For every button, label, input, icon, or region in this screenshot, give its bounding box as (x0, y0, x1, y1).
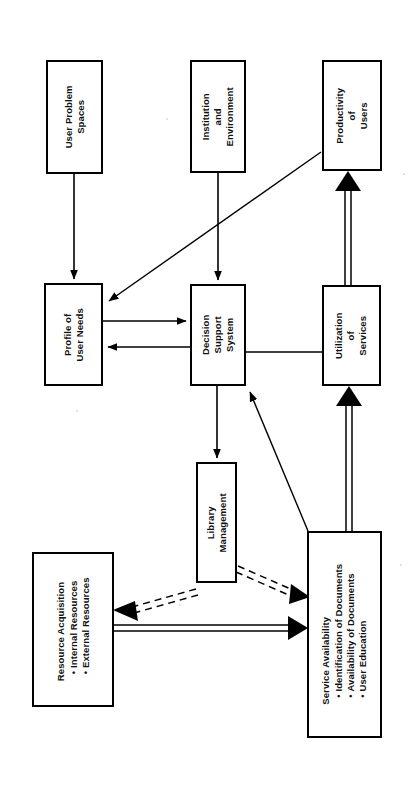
edge-service-availability-to-utilization (336, 386, 362, 531)
node-title-line1: Profile of (62, 308, 74, 361)
node-utilization-of-services[interactable]: Utilization of Services (322, 285, 381, 386)
node-label: Decision Support System (200, 315, 236, 355)
edge-library-management-to-service-availability (236, 566, 310, 604)
node-bullet-list: Identification of Documents Availability… (333, 564, 369, 705)
node-title-line3: Environment (224, 87, 236, 146)
node-title-line2: of (346, 312, 358, 359)
node-bullet-item: User Education (357, 564, 369, 705)
node-library-management[interactable]: Library Management (196, 462, 237, 583)
node-bullet-item: Identification of Documents (333, 564, 345, 705)
node-title-line1: Resource Acquisition (55, 578, 67, 682)
node-label: Productivity of Users (334, 87, 370, 143)
node-label: Institution and Environment (200, 87, 236, 146)
node-label: Resource Acquisition Internal Resources … (55, 578, 92, 682)
node-title-line2: Spaces (75, 86, 87, 149)
node-label: Service Availability Identification of D… (320, 564, 369, 705)
node-title-line2: of (346, 87, 358, 143)
node-title-line3: Services (357, 312, 369, 359)
node-decision-support-system[interactable]: Decision Support System (190, 284, 246, 386)
edge-productivity-to-profile (109, 152, 321, 301)
node-bullet-item: External Resources (79, 578, 91, 682)
node-institution-and-environment[interactable]: Institution and Environment (190, 60, 246, 173)
node-bullet-item: Availability of Documents (345, 564, 357, 705)
node-title-line2: User Needs (74, 308, 86, 361)
node-bullet-list: Internal Resources External Resources (68, 578, 92, 682)
edge-resource-acquisition-to-service-availability (114, 616, 308, 640)
node-title-line2: Management (217, 493, 229, 552)
node-productivity-of-users[interactable]: Productivity of Users (322, 60, 382, 171)
node-user-problem-spaces[interactable]: User Problem Spaces (46, 60, 103, 174)
node-label: Profile of User Needs (62, 308, 86, 361)
node-label: Utilization of Services (334, 312, 370, 359)
node-title-line1: Productivity (334, 87, 346, 143)
node-title-line2: Support (212, 315, 224, 355)
node-title-line1: Utilization (334, 312, 346, 359)
node-title-line1: Institution (200, 87, 212, 146)
node-title-line1: Decision (200, 315, 212, 355)
node-resource-acquisition[interactable]: Resource Acquisition Internal Resources … (32, 552, 114, 707)
node-label: User Problem Spaces (63, 86, 87, 149)
node-title-line2: and (212, 87, 224, 146)
node-title-line3: System (224, 315, 236, 355)
edge-service-availability-to-decision-support (250, 392, 308, 531)
node-title-line3: Users (358, 87, 370, 143)
node-service-availability[interactable]: Service Availability Identification of D… (307, 531, 382, 738)
node-bullet-item: Internal Resources (68, 578, 80, 682)
diagram-canvas: User Problem Spaces Institution and Envi… (0, 0, 411, 787)
node-profile-of-user-needs[interactable]: Profile of User Needs (44, 283, 103, 386)
edge-library-management-to-resource-acquisition (113, 589, 198, 621)
node-title-line1: Service Availability (320, 564, 332, 705)
node-title-line1: Library (205, 493, 217, 552)
edge-utilization-to-productivity (335, 171, 361, 285)
node-label: Library Management (205, 493, 229, 552)
node-title-line1: User Problem (63, 86, 75, 149)
